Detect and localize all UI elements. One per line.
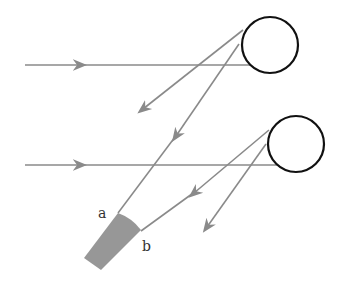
diagram-canvas: a b <box>0 0 349 282</box>
droplet-circle-1 <box>242 17 298 73</box>
outgoing-ray-2a-arrow <box>194 130 269 193</box>
shaded-region-ab <box>84 213 141 270</box>
droplet-circle-2 <box>268 116 324 172</box>
outgoing-ray-1a <box>143 30 243 109</box>
label-b: b <box>142 238 151 254</box>
outgoing-ray-1b <box>118 133 178 213</box>
ray-diagram <box>0 0 349 282</box>
label-a: a <box>98 205 106 221</box>
outgoing-ray-2a <box>141 191 196 231</box>
